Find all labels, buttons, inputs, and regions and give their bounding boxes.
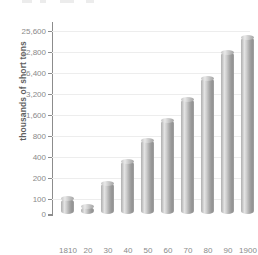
- bar-1810: [61, 199, 74, 215]
- bar-40: [121, 161, 134, 214]
- bar-cap-ellipse: [121, 159, 134, 164]
- bar-cap-ellipse: [241, 35, 254, 40]
- bar-cap-ellipse: [141, 138, 154, 143]
- y-axis-tick: [48, 52, 52, 53]
- gridline: [52, 31, 250, 32]
- bar-cap-ellipse: [101, 181, 114, 186]
- artifact-smudge: [40, 0, 46, 3]
- y-axis-tick-label: 400: [33, 152, 46, 161]
- y-axis-tick: [48, 136, 52, 137]
- bar-80: [201, 78, 214, 214]
- x-axis-tick-label: 90: [224, 246, 233, 255]
- y-axis-tick: [48, 178, 52, 179]
- bar-cap-ellipse: [181, 97, 194, 102]
- y-axis-tick: [48, 199, 52, 200]
- y-axis-tick-label: 3,200: [26, 89, 46, 98]
- bar-1900: [241, 37, 254, 214]
- x-axis-tick-label: 80: [204, 246, 213, 255]
- y-axis-tick: [48, 214, 52, 215]
- y-axis-tick-label: 800: [33, 131, 46, 140]
- bar-70: [181, 99, 194, 214]
- artifact-smudge: [86, 0, 94, 3]
- artifact-smudge: [60, 0, 74, 3]
- plot-area: 25,60012,8006,4003,2001,6008004002001000…: [52, 24, 250, 214]
- x-axis-tick-label: 50: [144, 246, 153, 255]
- y-axis-tick-label: 1,600: [26, 110, 46, 119]
- y-axis-tick: [48, 157, 52, 158]
- y-axis-tick-label: 12,800: [22, 47, 46, 56]
- x-axis-tick-label: 40: [124, 246, 133, 255]
- bar-60: [161, 120, 174, 214]
- bar-cap-ellipse: [61, 196, 74, 201]
- bar-50: [141, 140, 154, 214]
- artifact-smudge: [22, 0, 32, 3]
- bar-cap-ellipse: [161, 118, 174, 123]
- y-axis-tick-label: 100: [33, 194, 46, 203]
- x-axis-tick-label: 30: [104, 246, 113, 255]
- y-axis-tick-label: 200: [33, 173, 46, 182]
- y-axis-tick-label: 6,400: [26, 68, 46, 77]
- bar-cap-ellipse: [201, 76, 214, 81]
- y-axis-tick: [48, 94, 52, 95]
- x-axis-tick-label: 70: [184, 246, 193, 255]
- y-axis-tick: [48, 31, 52, 32]
- x-axis-tick-label: 20: [84, 246, 93, 255]
- bar-90: [221, 52, 234, 214]
- x-axis-tick-label: 1900: [239, 246, 257, 255]
- y-axis-origin-tick: [48, 215, 53, 216]
- bar-30: [101, 183, 114, 214]
- bar-cap-ellipse: [221, 50, 234, 55]
- x-axis-tick-label: 1810: [59, 246, 77, 255]
- y-axis-tick-label: 0: [42, 210, 46, 219]
- x-axis-tick-label: 60: [164, 246, 173, 255]
- bar-chart: thousands of short tons 25,60012,8006,40…: [0, 0, 258, 255]
- y-axis-tick: [48, 73, 52, 74]
- y-axis-tick: [48, 115, 52, 116]
- y-axis-tick-label: 25,600: [22, 26, 46, 35]
- bar-cap-ellipse: [81, 204, 94, 209]
- bar-20: [81, 207, 94, 215]
- cropped-header-artifact: [0, 0, 258, 8]
